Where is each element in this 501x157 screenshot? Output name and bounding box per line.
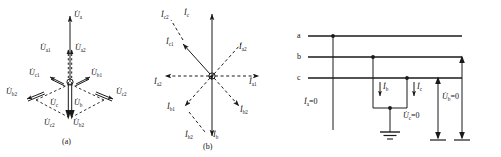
caption-b: (b) bbox=[203, 142, 212, 151]
diagram-a-voltage-phasors: U̇a U̇a1 U̇a2 U̇c1 U̇b1 U̇b2 U̇c2 U̇c U̇… bbox=[0, 0, 167, 157]
label-ua2: U̇a2 bbox=[75, 44, 86, 52]
phase-label-a: a bbox=[297, 31, 301, 40]
label-ia1-right: İa1 bbox=[249, 78, 257, 86]
label-ib2-bottom: İb2 bbox=[185, 131, 193, 139]
label-ib-bottom: İb bbox=[213, 131, 218, 139]
label-ub1: U̇b1 bbox=[91, 69, 102, 77]
label-ib1: İb1 bbox=[167, 103, 175, 111]
label-uc2-right: U̇c2 bbox=[116, 88, 127, 96]
label-ua-text: U̇ bbox=[74, 10, 80, 19]
diagram-c-canvas bbox=[290, 0, 501, 157]
caption-a: (a) bbox=[62, 137, 71, 146]
label-ub-zero: U̇b=0 bbox=[442, 93, 459, 101]
label-ic1: İc1 bbox=[166, 38, 174, 46]
label-ua1: U̇a1 bbox=[40, 44, 51, 52]
diagram-c-circuit: a b c İa=0 İb İc U̇b=0 U̇c=0 bbox=[290, 0, 501, 157]
label-ia2-upper-right: İa2 bbox=[239, 43, 247, 51]
label-ic-branch: İc bbox=[417, 83, 422, 91]
label-ub: U̇b bbox=[74, 99, 82, 107]
label-ua: U̇a bbox=[74, 11, 82, 19]
label-ic2-top: İc2 bbox=[161, 11, 169, 19]
label-ia-zero: İa=0 bbox=[304, 98, 318, 106]
label-uc1: U̇c1 bbox=[29, 69, 40, 77]
phase-label-c: c bbox=[297, 73, 301, 82]
label-uc: U̇c bbox=[50, 99, 58, 107]
label-ic-top: İc bbox=[184, 9, 189, 17]
label-ia2-left: İa2 bbox=[154, 78, 162, 86]
label-ub2-left: U̇b2 bbox=[6, 88, 17, 96]
label-uc-zero: U̇c=0 bbox=[403, 112, 420, 120]
diagram-a-canvas bbox=[0, 0, 167, 157]
phase-label-b: b bbox=[297, 52, 301, 61]
label-uc2-bottom: U̇c2 bbox=[44, 119, 55, 127]
label-ib2: İb2 bbox=[240, 106, 248, 114]
label-ub2-bottom: U̇b2 bbox=[73, 119, 84, 127]
figure-root: U̇a U̇a1 U̇a2 U̇c1 U̇b1 U̇b2 U̇c2 U̇c U̇… bbox=[0, 0, 501, 157]
label-ib-branch: İb bbox=[383, 83, 388, 91]
diagram-b-current-phasors: İc2 İc İc1 İa2 İa2 İa1 İb1 İb2 İb2 İb (b… bbox=[145, 0, 290, 157]
